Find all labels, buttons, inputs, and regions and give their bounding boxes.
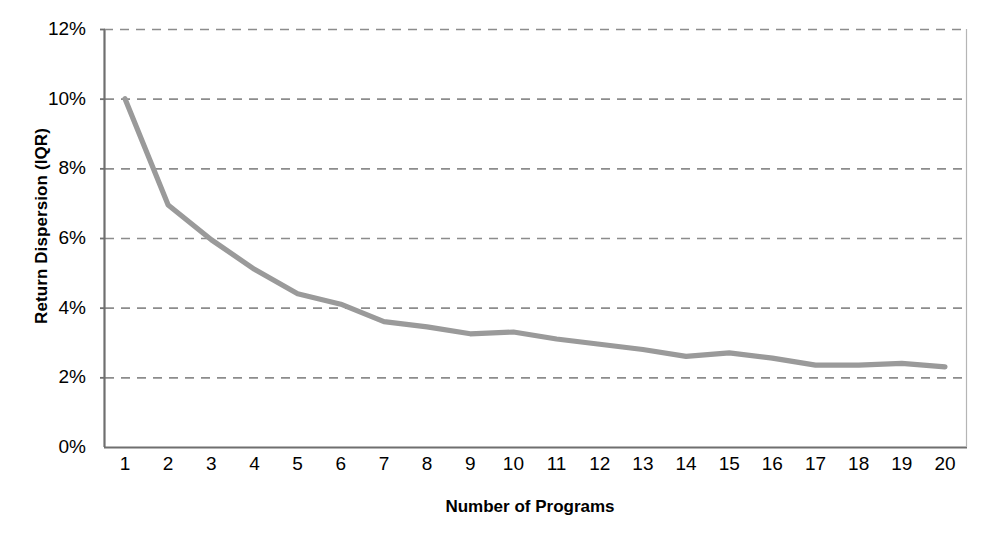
x-axis-title: Number of Programs <box>100 497 960 517</box>
chart-container: Return Dispersion (IQR) 0%2%4%6%8%10%12%… <box>0 0 989 544</box>
data-series-line <box>125 99 945 367</box>
plot-area <box>0 0 989 544</box>
